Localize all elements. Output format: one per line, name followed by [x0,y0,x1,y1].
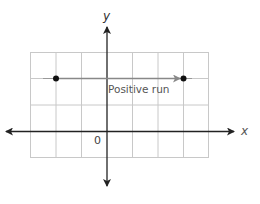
x-axis-label: x [240,124,249,138]
positive-run-label: Positive run [108,83,169,95]
origin-label: 0 [94,134,101,147]
start-point [53,76,59,82]
y-axis-label: y [102,9,111,23]
end-point [181,76,187,82]
coordinate-plane: y x 0 Positive run [0,0,260,204]
grid [30,52,209,158]
